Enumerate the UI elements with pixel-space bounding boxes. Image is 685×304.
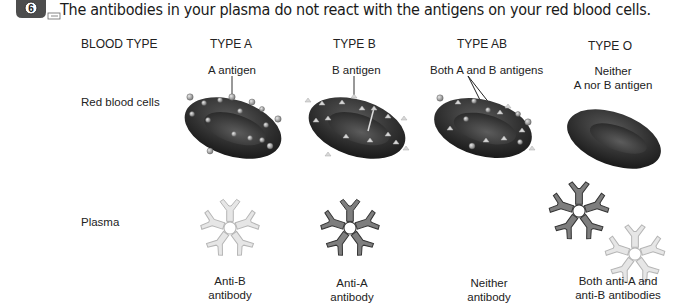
type-ab-header: TYPE AB: [457, 37, 507, 51]
tag-icon: [48, 5, 60, 11]
type-b-antibody-label: Anti-A antibody: [327, 276, 377, 304]
red-blood-cells-label: Red blood cells: [81, 96, 160, 108]
type-o-header: TYPE O: [588, 39, 632, 53]
type-ab-red-blood-cell: [428, 76, 538, 166]
anti-a-antibody-icon: [548, 180, 610, 242]
type-a-red-blood-cell: [178, 76, 288, 166]
svg-text:6: 6: [28, 3, 34, 14]
type-a-header: TYPE A: [210, 37, 252, 51]
type-a-antigen-label: A antigen: [208, 63, 256, 77]
type-b-header: TYPE B: [333, 37, 376, 51]
step-number-icon: 6: [14, 0, 48, 18]
type-ab-antibody-label: Neither antibody: [459, 276, 519, 304]
type-ab-antigen-label: Both A and B antigens: [430, 63, 543, 77]
type-b-antigen-label: B antigen: [332, 63, 381, 77]
blood-type-header: BLOOD TYPE: [81, 37, 157, 51]
type-o-antigen-label: Neither A nor B antigen: [565, 64, 661, 92]
caption-text: The antibodies in your plasma do not rea…: [60, 1, 651, 19]
plasma-label: Plasma: [81, 216, 119, 228]
step-badge: 6: [14, 0, 48, 18]
anti-b-antibody-icon: [200, 198, 260, 258]
type-o-antibody-label: Both anti-A and anti-B antibodies: [563, 274, 673, 302]
type-b-red-blood-cell: [302, 76, 412, 166]
type-o-red-blood-cell: [562, 104, 666, 174]
anti-a-antibody-icon: [320, 198, 380, 258]
type-a-antibody-label: Anti-B antibody: [205, 274, 255, 302]
